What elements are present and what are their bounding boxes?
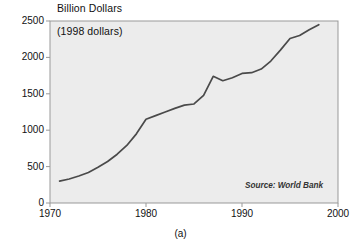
- y-tick-label: 1500: [10, 88, 44, 99]
- chart-subtitle: (1998 dollars): [57, 25, 123, 37]
- y-tick-label: 1000: [10, 124, 44, 135]
- figure-container: Billion Dollars (1998 dollars) Source: W…: [0, 0, 361, 252]
- plot-background: [50, 21, 338, 203]
- figure-caption: (a): [0, 228, 361, 239]
- source-annotation: Source: World Bank: [245, 181, 323, 190]
- x-tick-label: 1970: [27, 208, 73, 219]
- y-tick-label: 2500: [10, 15, 44, 26]
- chart-axis-title: Billion Dollars: [57, 2, 122, 14]
- x-tick-label: 1990: [219, 208, 265, 219]
- x-tick-label: 1980: [123, 208, 169, 219]
- y-tick-label: 2000: [10, 51, 44, 62]
- x-tick-label: 2000: [315, 208, 361, 219]
- y-tick-label: 500: [10, 161, 44, 172]
- y-tick-label: 0: [10, 197, 44, 208]
